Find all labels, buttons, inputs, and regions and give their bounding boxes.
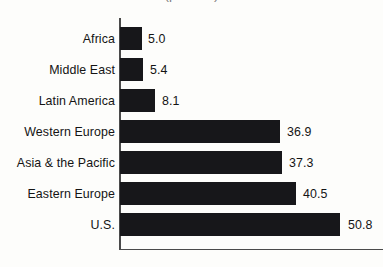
bar (120, 89, 155, 112)
bar-row: Africa 5.0 (0, 27, 383, 50)
bar (120, 151, 282, 174)
category-label: Asia & the Pacific (17, 156, 115, 170)
bar-chart: (percent) Africa 5.0 Middle East 5.4 Lat… (0, 0, 383, 267)
category-label: Western Europe (24, 125, 115, 139)
plot-area: Africa 5.0 Middle East 5.4 Latin America… (0, 0, 383, 267)
bar-row: Asia & the Pacific 37.3 (0, 151, 383, 174)
bar (120, 120, 280, 143)
bar-row: U.S. 50.8 (0, 213, 383, 236)
category-label: Latin America (39, 94, 115, 108)
value-label: 50.8 (348, 218, 373, 232)
bar (120, 27, 142, 50)
category-label: Middle East (49, 63, 115, 77)
bar-row: Latin America 8.1 (0, 89, 383, 112)
value-label: 37.3 (289, 156, 314, 170)
bar (120, 182, 296, 205)
category-label: Africa (83, 32, 115, 46)
value-label: 40.5 (303, 187, 328, 201)
category-label: U.S. (91, 218, 116, 232)
bar-row: Eastern Europe 40.5 (0, 182, 383, 205)
value-label: 36.9 (287, 125, 312, 139)
x-axis-baseline (119, 249, 383, 250)
value-label: 8.1 (162, 94, 180, 108)
value-label: 5.0 (148, 32, 166, 46)
value-label: 5.4 (150, 63, 168, 77)
category-label: Eastern Europe (28, 187, 116, 201)
bar-row: Middle East 5.4 (0, 58, 383, 81)
bar (120, 58, 143, 81)
bar-row: Western Europe 36.9 (0, 120, 383, 143)
bar (120, 213, 340, 236)
